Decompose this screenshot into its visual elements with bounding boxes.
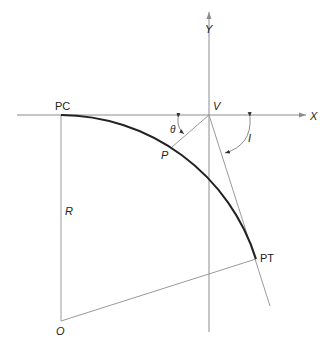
theta-label: θ [170,124,176,135]
o-label: O [56,325,65,337]
radius-o-pt [61,259,256,321]
pt-label: PT [260,252,274,264]
tangent-line [209,115,270,306]
p-label: P [161,149,169,161]
curve-diagram: Y X PC V θ P I R PT O [0,0,332,346]
x-axis-label: X [309,110,318,122]
pc-label: PC [55,100,70,112]
i-label: I [248,132,251,144]
v-label: V [213,100,222,112]
y-axis-label: Y [205,23,213,35]
r-label: R [65,205,73,217]
deflection-angle-arc [225,117,250,153]
theta-angle-arc [178,118,184,134]
circular-curve [61,115,256,259]
